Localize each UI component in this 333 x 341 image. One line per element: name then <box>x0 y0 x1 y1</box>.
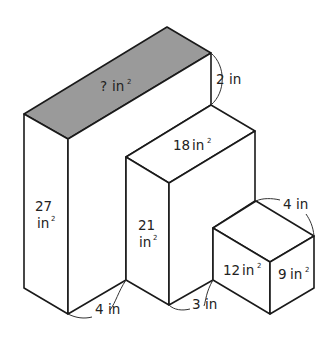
svg-text:in: in <box>139 234 151 250</box>
svg-text:2: 2 <box>51 215 55 223</box>
svg-text:2: 2 <box>305 266 309 274</box>
svg-text:2: 2 <box>153 234 157 242</box>
svg-text:?: ? <box>100 78 107 94</box>
small-width-label: 4 in <box>283 196 308 212</box>
height-diff-label: 2 in <box>216 71 241 87</box>
svg-text:2: 2 <box>257 262 261 270</box>
svg-text:2: 2 <box>127 78 131 86</box>
svg-text:in: in <box>242 262 254 278</box>
svg-text:in: in <box>37 215 49 231</box>
svg-text:in: in <box>112 78 124 94</box>
stepped-prisms-diagram: ? in 2 2 in 27 in 2 18 in 2 21 in 2 4 in… <box>0 0 333 341</box>
svg-text:12: 12 <box>223 262 240 278</box>
big-prism-front-face <box>24 114 68 314</box>
mid-depth-label: 3 in <box>192 296 217 312</box>
svg-text:2: 2 <box>207 137 211 145</box>
svg-text:in: in <box>290 266 302 282</box>
big-depth-label: 4 in <box>95 301 120 317</box>
svg-text:21: 21 <box>138 217 155 233</box>
svg-text:in: in <box>192 137 204 153</box>
svg-text:18: 18 <box>173 137 190 153</box>
svg-text:9: 9 <box>278 266 287 282</box>
svg-text:27: 27 <box>35 198 52 214</box>
small-cube <box>213 201 314 314</box>
